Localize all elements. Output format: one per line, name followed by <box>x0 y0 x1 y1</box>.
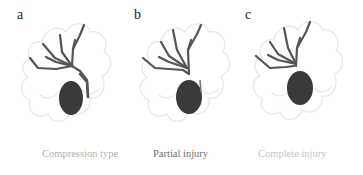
injured-duct-segment-icon <box>200 80 201 92</box>
panel-a-compression-type: a Compression type <box>0 0 121 175</box>
gallbladder-icon <box>176 80 202 114</box>
caption-compression-type: Compression type <box>42 149 118 160</box>
caption-complete-injury: Complete injury <box>258 149 327 160</box>
bile-duct-tree-icon <box>143 25 201 74</box>
gallbladder-icon <box>287 71 313 105</box>
panel-c-complete-injury: c Complete injury <box>242 0 363 175</box>
panel-b-partial-injury: b Partial injury <box>121 0 242 175</box>
caption-partial-injury: Partial injury <box>153 149 208 160</box>
gallbladder-icon <box>59 81 83 115</box>
bile-duct-tree-icon <box>256 22 310 68</box>
